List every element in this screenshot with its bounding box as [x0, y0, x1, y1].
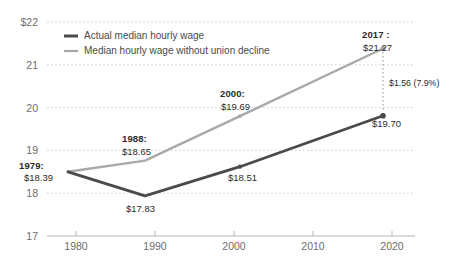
- y-axis-label-19: 19: [8, 144, 38, 156]
- annotation-1988-year: 1988:: [122, 133, 147, 144]
- annotation-2017-year: 2017 :: [362, 29, 390, 40]
- y-axis-label-20: 20: [8, 102, 38, 114]
- legend-item-actual: Actual median hourly wage: [84, 30, 204, 41]
- legend-item-counterfactual: Median hourly wage without union decline: [84, 45, 270, 56]
- chart-container: $22 21 20 19 18 17 1980 1990 2000 2010 2…: [0, 0, 452, 263]
- x-axis-label-2010: 2010: [291, 240, 335, 252]
- x-axis-label-1990: 1990: [133, 240, 177, 252]
- annotation-1988-value: $18.65: [122, 146, 151, 157]
- annotation-1979-year: 1979:: [19, 160, 44, 171]
- y-axis-label-18: 18: [8, 187, 38, 199]
- annotation-2017-value: $21.27: [363, 42, 392, 53]
- annotation-gap-value: $1.56 (7.9%): [389, 78, 439, 88]
- y-axis-label-22: $22: [8, 16, 38, 28]
- annotation-2000-year: 2000:: [220, 88, 245, 99]
- marker-2000-counterfactual: [238, 114, 242, 118]
- annotation-1979-value: $18.39: [24, 172, 53, 183]
- y-axis-label-21: 21: [8, 59, 38, 71]
- annotation-1988-actual-value: $17.83: [126, 203, 155, 214]
- marker-2000-actual: [238, 165, 242, 169]
- x-axis-ticks: [76, 231, 392, 236]
- series-line-actual: [68, 116, 383, 196]
- annotation-2017-actual-value: $19.70: [372, 118, 401, 129]
- x-axis-label-1980: 1980: [54, 240, 98, 252]
- x-axis-label-2020: 2020: [370, 240, 414, 252]
- annotation-2000-actual-value: $18.51: [228, 172, 257, 183]
- annotation-2000-value: $19.69: [221, 101, 250, 112]
- y-axis-label-17: 17: [8, 230, 38, 242]
- x-axis-label-2000: 2000: [212, 240, 256, 252]
